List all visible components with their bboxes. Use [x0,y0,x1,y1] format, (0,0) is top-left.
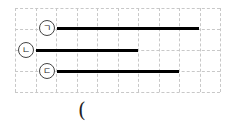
bar-digeut [57,70,179,73]
answer-blank-paren: ( [78,98,86,122]
bar-label-nieun: ㄴ [18,42,34,58]
bar-giyeok [57,27,199,30]
bar-nieun [36,49,138,52]
bar-label-digeut: ㄷ [39,63,55,79]
grid-hline [15,92,220,93]
bar-label-giyeok: ㄱ [39,20,55,36]
grid-vline [220,8,221,92]
grid-hline [15,8,220,9]
